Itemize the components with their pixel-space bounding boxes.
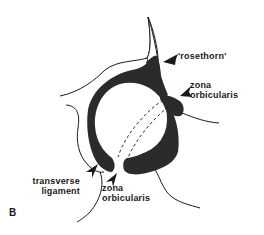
arrow-rosethorn-icon xyxy=(163,54,178,65)
label-zona-lower-line2: orbicularis xyxy=(102,193,150,203)
label-zona-lower-line1: zona xyxy=(102,183,150,193)
capsule-outline-lower-right xyxy=(152,165,200,208)
capsule-outline-lower-left xyxy=(77,172,102,222)
label-zona-orbicularis-upper: zona orbicularis xyxy=(190,80,238,100)
label-zona-upper-line1: zona xyxy=(190,80,238,90)
label-rosethorn-text: 'rosethorn' xyxy=(178,51,226,61)
capsule-outline-right xyxy=(182,113,219,123)
label-rosethorn: 'rosethorn' xyxy=(178,51,226,61)
anatomical-figure: 'rosethorn' zona orbicularis transverse … xyxy=(0,0,264,235)
panel-letter: B xyxy=(9,207,16,218)
label-zona-upper-line2: orbicularis xyxy=(190,90,238,100)
label-transverse-line1: transverse xyxy=(20,176,80,186)
femoral-head xyxy=(97,85,167,155)
label-transverse-ligament: transverse ligament xyxy=(20,176,80,196)
label-zona-orbicularis-lower: zona orbicularis xyxy=(102,183,150,203)
label-transverse-line2: ligament xyxy=(20,186,80,196)
